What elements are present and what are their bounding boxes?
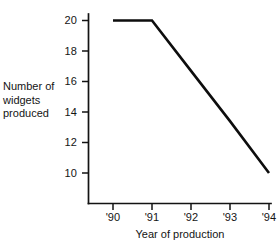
line-chart-figure: 20 18 16 14 12 10 '90 '91 '92 '93 '94 Nu…	[0, 0, 279, 249]
y-axis-label: Number of widgets produced	[3, 80, 69, 121]
data-series-widgets-produced	[113, 21, 269, 174]
x-tick-label-93: '93	[217, 212, 243, 223]
x-axis-label: Year of production	[88, 228, 272, 240]
y-axis-label-line-1: Number of	[3, 80, 69, 94]
x-tick-label-91: '91	[139, 212, 165, 223]
y-tick-label-12: 12	[55, 137, 77, 148]
y-axis-label-line-3: produced	[3, 107, 69, 121]
x-tick-label-92: '92	[178, 212, 204, 223]
x-tick-label-94: '94	[256, 212, 279, 223]
x-tick-label-90: '90	[100, 212, 126, 223]
y-tick-label-20: 20	[55, 15, 77, 26]
y-axis-label-line-2: widgets	[3, 94, 69, 108]
y-tick-label-10: 10	[55, 168, 77, 179]
y-tick-label-18: 18	[55, 46, 77, 57]
